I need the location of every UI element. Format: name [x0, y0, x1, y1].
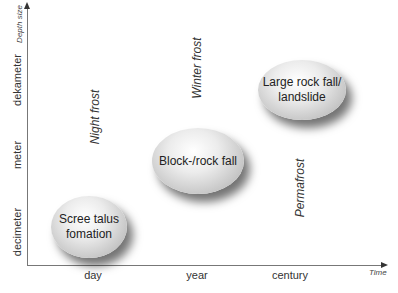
x-label-day: day: [84, 269, 102, 281]
y-axis: [27, 6, 28, 266]
bubble-text-line1: Large rock fall/: [263, 75, 342, 90]
y-axis-title: Depth size: [15, 5, 24, 43]
bubble-block-rock-fall: Block-/rock fall: [152, 128, 244, 194]
x-label-century: century: [272, 269, 308, 281]
bubble-text-line1: Scree talus: [59, 212, 119, 227]
y-label-dekameter: dekameter: [11, 54, 23, 106]
x-axis-title: Time: [369, 268, 387, 277]
y-label-decimeter: decimeter: [11, 208, 23, 256]
y-axis-arrow-icon: [24, 2, 30, 9]
bubble-text-line2: fomation: [59, 227, 119, 242]
permafrost-label: Permafrost: [293, 159, 307, 218]
bubble-scree-talus: Scree talus fomation: [51, 196, 127, 258]
y-label-meter: meter: [11, 141, 23, 169]
x-axis: [27, 265, 383, 266]
bubble-large-rock-fall: Large rock fall/ landslide: [258, 60, 346, 120]
winter-frost-label: Winter frost: [190, 37, 204, 98]
night-frost-label: Night frost: [88, 90, 102, 145]
x-label-year: year: [186, 269, 207, 281]
bubble-text-line1: Block-/rock fall: [159, 154, 237, 169]
bubble-text-line2: landslide: [263, 90, 342, 105]
